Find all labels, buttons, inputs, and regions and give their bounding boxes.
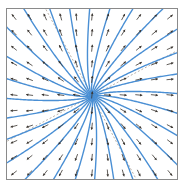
phase-portrait-svg: [0, 0, 185, 188]
plot-area: [0, 0, 185, 188]
phase-portrait-figure: [0, 0, 185, 188]
